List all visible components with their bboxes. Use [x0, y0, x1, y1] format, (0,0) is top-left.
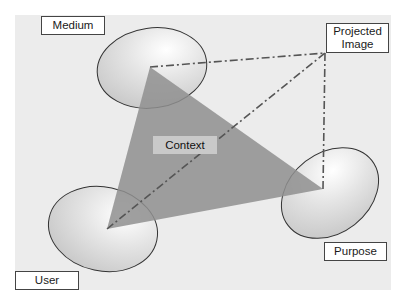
projected-image-label: Projected Image [326, 23, 389, 53]
projected-image-label-line2: Image [342, 38, 374, 51]
projected-image-label-line1: Projected [333, 25, 382, 38]
context-label-text: Context [165, 139, 205, 151]
medium-label-text: Medium [53, 19, 94, 32]
purpose-label-text: Purpose [334, 245, 377, 258]
user-label: User [15, 271, 79, 290]
medium-label: Medium [41, 16, 105, 35]
purpose-label: Purpose [324, 242, 387, 261]
user-label-text: User [35, 274, 59, 287]
context-label: Context [153, 136, 217, 154]
